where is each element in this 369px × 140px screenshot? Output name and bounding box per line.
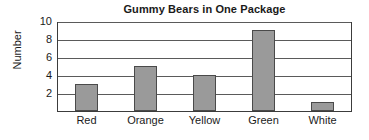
y-axis-tick-labels: 246810 xyxy=(0,22,52,112)
gridline-y-8 xyxy=(58,40,351,41)
gridline-y-4 xyxy=(58,76,351,77)
chart-title: Gummy Bears in One Package xyxy=(57,3,352,15)
y-tick-label-4: 4 xyxy=(6,70,52,81)
gridline-y-2 xyxy=(58,94,351,95)
x-axis-tick-labels: RedOrangeYellowGreenWhite xyxy=(57,114,352,134)
y-tick-label-2: 2 xyxy=(6,88,52,99)
gridline-y-10 xyxy=(58,22,351,23)
y-tick-label-6: 6 xyxy=(6,52,52,63)
x-tick-label-white: White xyxy=(288,114,358,127)
y-tick-label-8: 8 xyxy=(6,34,52,45)
plot-area xyxy=(57,22,352,112)
bar-chart: Gummy Bears in One Package Number 246810… xyxy=(0,0,369,140)
y-tick-label-10: 10 xyxy=(6,16,52,27)
gridline-y-6 xyxy=(58,58,351,59)
